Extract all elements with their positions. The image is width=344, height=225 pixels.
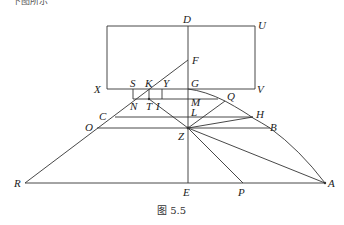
label-y: Y xyxy=(163,77,171,89)
label-k: K xyxy=(144,77,153,89)
label-e: E xyxy=(182,186,190,198)
top-text-fragment: 下图所示 xyxy=(12,0,48,6)
label-a: A xyxy=(327,177,335,189)
label-x: X xyxy=(93,83,102,95)
label-d: D xyxy=(182,13,191,25)
label-b: B xyxy=(270,121,277,133)
point-z-dot xyxy=(187,127,190,130)
geometry-figure: 下图所示 D U F X S K Y G xyxy=(0,0,344,225)
rays-from-z xyxy=(149,99,325,183)
label-f: F xyxy=(191,54,199,66)
label-u: U xyxy=(258,19,267,31)
label-p: P xyxy=(237,186,245,198)
label-r: R xyxy=(13,177,21,189)
figure-caption: 图 5.5 xyxy=(157,205,186,216)
label-t: T xyxy=(146,100,153,112)
label-s: S xyxy=(130,77,136,89)
label-q: Q xyxy=(227,90,235,102)
label-o: O xyxy=(85,121,93,133)
label-g: G xyxy=(191,77,199,89)
label-c: C xyxy=(99,110,107,122)
label-i: I xyxy=(155,100,161,112)
label-z: Z xyxy=(178,130,185,142)
label-h: H xyxy=(255,108,265,120)
point-a-dot xyxy=(324,182,326,184)
point-labels: D U F X S K Y G V N T I M Q C L H O B Z … xyxy=(13,13,335,198)
label-v: V xyxy=(257,83,265,95)
label-n: N xyxy=(129,100,138,112)
label-l: L xyxy=(190,106,197,118)
